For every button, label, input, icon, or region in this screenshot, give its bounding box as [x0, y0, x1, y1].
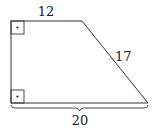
top-side-label: 12 [38, 4, 55, 19]
right-angle-marker-bottom-left [11, 90, 24, 103]
bottom-brace [11, 105, 148, 111]
bottom-side-label: 20 [72, 113, 89, 128]
right-angle-marker-top-left [11, 21, 24, 34]
slant-side-label: 17 [115, 49, 132, 64]
trapezoid-diagram: 12 17 20 [0, 0, 156, 134]
